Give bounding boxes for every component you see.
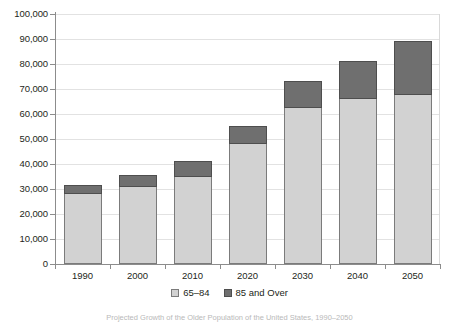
legend-label-85-and-over: 85 and Over <box>236 288 288 298</box>
bar-segment[interactable] <box>394 41 432 95</box>
legend-item-65-84[interactable]: 65–84 <box>171 288 209 298</box>
y-axis-tick-mark <box>50 64 55 65</box>
y-axis-tick-label: 60,000 <box>0 109 48 119</box>
y-axis-tick-mark <box>50 239 55 240</box>
x-axis-tick-mark <box>165 264 166 269</box>
stacked-bar-chart: 010,00020,00030,00040,00050,00060,00070,… <box>0 0 459 322</box>
y-axis-tick-mark <box>50 214 55 215</box>
y-axis-tick-mark <box>50 164 55 165</box>
x-axis-tick-mark <box>55 264 56 269</box>
x-axis-tick-mark <box>330 264 331 269</box>
y-axis-tick-mark <box>50 114 55 115</box>
x-axis-tick-label: 2030 <box>275 270 330 281</box>
bar-group[interactable] <box>174 14 212 264</box>
x-axis-tick-label: 2010 <box>165 270 220 281</box>
legend-swatch-icon-85-and-over <box>224 289 232 297</box>
y-axis-tick-label: 40,000 <box>0 159 48 169</box>
x-axis-tick-label: 2000 <box>110 270 165 281</box>
x-axis-line <box>50 264 440 265</box>
bar-segment[interactable] <box>339 61 377 100</box>
y-axis-tick-label: 100,000 <box>0 9 48 19</box>
bar-group[interactable] <box>119 14 157 264</box>
bar-segment[interactable] <box>64 193 102 264</box>
bar-segment[interactable] <box>119 175 157 187</box>
bar-segment[interactable] <box>394 94 432 264</box>
x-axis-tick-mark <box>220 264 221 269</box>
bar-group[interactable] <box>229 14 267 264</box>
x-axis-tick-mark <box>275 264 276 269</box>
legend: 65–84 85 and Over <box>0 288 459 298</box>
bar-segment[interactable] <box>64 185 102 194</box>
y-axis-tick-label: 30,000 <box>0 184 48 194</box>
bar-segment[interactable] <box>119 186 157 265</box>
x-axis-tick-label: 1990 <box>55 270 110 281</box>
y-axis-tick-label: 90,000 <box>0 34 48 44</box>
legend-label-65-84: 65–84 <box>183 288 209 298</box>
legend-swatch-icon-65-84 <box>171 289 179 297</box>
x-axis-tick-label: 2020 <box>220 270 275 281</box>
plot-area <box>55 14 440 264</box>
bar-group[interactable] <box>64 14 102 264</box>
x-axis-tick-mark <box>440 264 441 269</box>
bar-segment[interactable] <box>339 98 377 264</box>
y-axis-tick-mark <box>50 89 55 90</box>
bar-group[interactable] <box>284 14 322 264</box>
y-axis-tick-label: 70,000 <box>0 84 48 94</box>
bar-group[interactable] <box>394 14 432 264</box>
y-axis-tick-label: 50,000 <box>0 134 48 144</box>
bar-segment[interactable] <box>174 161 212 178</box>
bar-group[interactable] <box>339 14 377 264</box>
x-axis-tick-label: 2040 <box>330 270 385 281</box>
bar-segment[interactable] <box>229 126 267 145</box>
y-axis-tick-label: 80,000 <box>0 59 48 69</box>
y-axis-tick-mark <box>50 14 55 15</box>
y-axis-tick-label: 0 <box>0 259 48 269</box>
x-axis-tick-mark <box>110 264 111 269</box>
bar-segment[interactable] <box>284 107 322 265</box>
bar-segment[interactable] <box>284 81 322 108</box>
y-axis-line <box>55 12 56 266</box>
x-axis-tick-label: 2050 <box>385 270 440 281</box>
figure-caption: Projected Growth of the Older Population… <box>0 313 459 322</box>
y-axis-tick-label: 10,000 <box>0 234 48 244</box>
legend-item-85-and-over[interactable]: 85 and Over <box>224 288 288 298</box>
y-axis-tick-mark <box>50 189 55 190</box>
y-axis-tick-mark <box>50 39 55 40</box>
plot-right-border <box>439 14 440 264</box>
y-axis-tick-mark <box>50 139 55 140</box>
bar-segment[interactable] <box>229 143 267 264</box>
y-axis-tick-label: 20,000 <box>0 209 48 219</box>
x-axis-tick-mark <box>385 264 386 269</box>
bar-segment[interactable] <box>174 176 212 264</box>
